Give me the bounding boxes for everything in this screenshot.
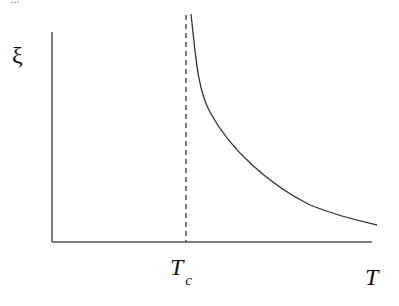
tc-subscript: c [185, 272, 192, 288]
x-axis-label: T [365, 264, 378, 291]
y-axis-label: ξ [12, 42, 23, 69]
correlation-length-curve [191, 14, 377, 225]
tc-main: T [170, 254, 183, 280]
plot-area [0, 0, 399, 306]
critical-temperature-label: Tc [170, 254, 192, 285]
